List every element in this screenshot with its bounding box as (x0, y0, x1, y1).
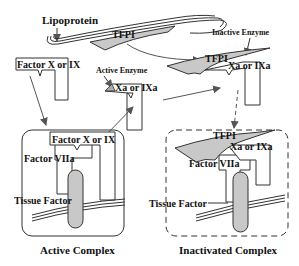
xa-ixa-label-center: Xa or IXa (115, 82, 158, 93)
factor-x-ix-label-complex: Factor X or IX (52, 134, 116, 145)
inactivated-complex-label: Inactivated Complex (179, 244, 278, 256)
factor-x-ix-label-top: Factor X or IX (17, 59, 81, 70)
inactivation-dashed-arrow (234, 90, 238, 128)
xa-ixa-label-bottom: Xa or IXa (230, 141, 273, 152)
tissue-factor-label-right: Tissue Factor (149, 198, 207, 209)
tissue-factor-shape-right (233, 172, 248, 232)
tfpi-transfer-arrow (127, 44, 200, 60)
tfpi-label-mid: TFPI (205, 53, 228, 64)
lipoprotein-label: Lipoprotein (42, 14, 98, 26)
factor-viia-label-right: Factor VIIa (189, 158, 239, 169)
xa-ixa-label-mid: Xa or IXa (228, 60, 271, 71)
factor-viia-label-left: Factor VIIa (24, 153, 74, 164)
tissue-factor-label-left: Tissue Factor (14, 195, 72, 206)
tfpi-label-top: TFPI (112, 29, 135, 40)
substrate-binding-arrow (30, 76, 46, 125)
tfpi-label-bottom: TFPI (213, 130, 236, 141)
tfpi-mechanism-diagram: Lipoprotein TFPI Factor X or IX Active E… (0, 0, 299, 266)
active-enzyme-label: Active Enzyme (96, 66, 148, 75)
active-complex-label: Active Complex (40, 244, 115, 256)
inhibition-arrow (163, 88, 220, 100)
inactive-enzyme-label: Inactive Enzyme (212, 28, 270, 37)
